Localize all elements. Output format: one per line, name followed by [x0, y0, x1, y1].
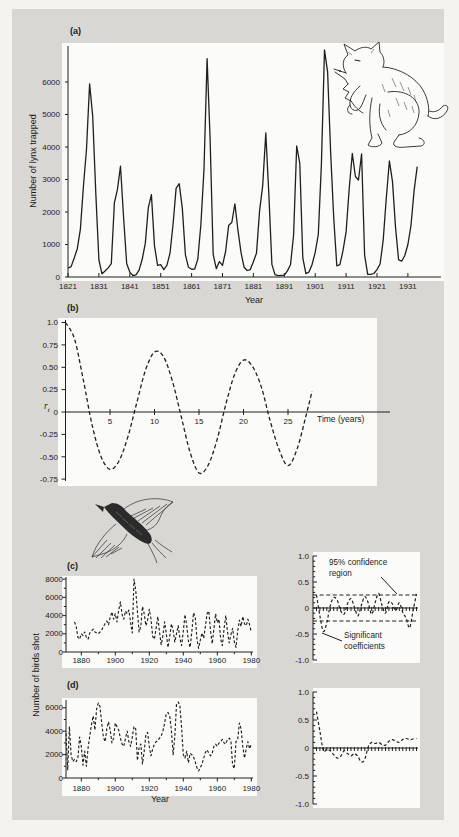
- b-plot-area: [58, 318, 377, 486]
- panel-b-label: (b): [67, 303, 79, 313]
- panel-d-x-axis-title: Year: [130, 794, 190, 804]
- chart-c: 0200040006000800018801900192019401960198…: [45, 575, 261, 668]
- confidence-region-annotation: 95% confidence region: [329, 558, 414, 579]
- a-x-tick-label: 1931: [399, 282, 417, 291]
- grouse-illustration: [86, 494, 188, 574]
- e-y-tick-label: 0: [305, 604, 310, 613]
- rt-subscript: t: [48, 406, 50, 414]
- c-y-tick-label: 6000: [45, 593, 63, 602]
- a-x-tick-label: 1841: [121, 282, 139, 291]
- lynx-illustration: [322, 40, 456, 158]
- a-x-tick-label: 1821: [59, 282, 77, 291]
- autocorrelation-y-axis-title: rt: [44, 401, 50, 414]
- c-x-tick-label: 1940: [174, 656, 192, 665]
- a-x-tick-label: 1831: [90, 282, 108, 291]
- b-x-tick-label: 15: [195, 417, 204, 426]
- a-y-tick-label: 3000: [42, 175, 60, 184]
- a-y-tick-label: 1000: [42, 240, 60, 249]
- d-y-tick-label: 6000: [45, 703, 63, 712]
- c-y-tick-label: 2000: [45, 629, 63, 638]
- a-x-tick-label: 1881: [245, 282, 263, 291]
- a-y-tick-label: 5000: [42, 110, 60, 119]
- a-y-tick-label: 2000: [42, 208, 60, 217]
- c-plot-area: [62, 576, 257, 668]
- d-y-tick-label: 0: [59, 774, 64, 783]
- significant-coefficients-annotation: Significant coefficients: [344, 631, 424, 652]
- a-y-tick-label: 0: [56, 273, 61, 282]
- f-y-tick-label: 0.5: [298, 716, 310, 725]
- d-x-tick-label: 1900: [106, 784, 124, 793]
- a-x-tick-label: 1871: [214, 282, 232, 291]
- panel-a-x-axis-title: Year: [224, 295, 284, 305]
- b-x-tick-label: 10: [150, 417, 159, 426]
- b-y-tick-label: -0.50: [40, 453, 59, 462]
- a-x-tick-label: 1851: [152, 282, 170, 291]
- e-y-tick-label: -1.0: [295, 656, 309, 665]
- c-y-tick-label: 0: [59, 648, 64, 657]
- c-x-tick-label: 1980: [242, 656, 260, 665]
- b-y-tick-label: -0.75: [40, 475, 59, 484]
- b-y-tick-label: 0.25: [42, 385, 58, 394]
- c-y-tick-label: 8000: [45, 575, 63, 584]
- c-x-tick-label: 1960: [208, 656, 226, 665]
- chart-b: 1.00.750.500.250-0.25-0.50-0.75510152025: [40, 318, 390, 486]
- panel-b-x-axis-title: Time (years): [317, 414, 364, 425]
- b-y-tick-label: 0.75: [42, 341, 58, 350]
- a-x-tick-label: 1911: [337, 282, 355, 291]
- panel-c-label: (c): [67, 561, 78, 571]
- e-y-tick-label: 1.0: [298, 552, 310, 561]
- f-y-tick-label: -0.5: [295, 772, 309, 781]
- b-y-tick-label: 1.0: [47, 318, 59, 327]
- panel-a-label: (a): [70, 26, 81, 36]
- b-y-tick-label: 0.50: [42, 363, 58, 372]
- b-y-tick-label: -0.25: [40, 430, 59, 439]
- e-y-tick-label: 0.5: [298, 578, 310, 587]
- a-x-tick-label: 1921: [368, 282, 386, 291]
- b-x-tick-label: 5: [108, 417, 113, 426]
- d-x-tick-label: 1920: [140, 784, 158, 793]
- scanned-figure-page: 0100020003000400050006000182118311841185…: [0, 0, 459, 837]
- d-y-tick-label: 4000: [45, 727, 63, 736]
- b-x-tick-label: 25: [284, 417, 293, 426]
- b-y-tick-label: 0: [54, 408, 59, 417]
- c-y-tick-label: 4000: [45, 611, 63, 620]
- c-x-tick-label: 1900: [106, 656, 124, 665]
- d-y-tick-label: 2000: [45, 750, 63, 759]
- f-y-tick-label: 0: [305, 744, 310, 753]
- f-y-tick-label: -1.0: [295, 800, 309, 809]
- d-x-tick-label: 1960: [208, 784, 226, 793]
- lynx-y-axis-title: Number of lynx trapped: [28, 86, 38, 236]
- a-x-tick-label: 1891: [275, 282, 293, 291]
- panel-d-label: (d): [67, 680, 79, 690]
- d-x-tick-label: 1940: [174, 784, 192, 793]
- f-y-tick-label: 1.0: [298, 688, 310, 697]
- birds-y-axis-title: Number of birds shot: [31, 600, 41, 750]
- d-x-tick-label: 1980: [242, 784, 260, 793]
- c-x-tick-label: 1920: [140, 656, 158, 665]
- a-y-tick-label: 4000: [42, 143, 60, 152]
- chart-f: 1.00.50-0.5-1.0: [295, 688, 420, 809]
- a-y-tick-label: 6000: [42, 78, 60, 87]
- a-x-tick-label: 1901: [306, 282, 324, 291]
- d-x-tick-label: 1880: [72, 784, 90, 793]
- b-x-tick-label: 20: [239, 417, 248, 426]
- c-x-tick-label: 1880: [72, 656, 90, 665]
- e-y-tick-label: -0.5: [295, 630, 309, 639]
- d-plot-area: [62, 698, 257, 796]
- a-x-tick-label: 1861: [183, 282, 201, 291]
- chart-d: 0200040006000188019001920194019601980: [45, 698, 261, 796]
